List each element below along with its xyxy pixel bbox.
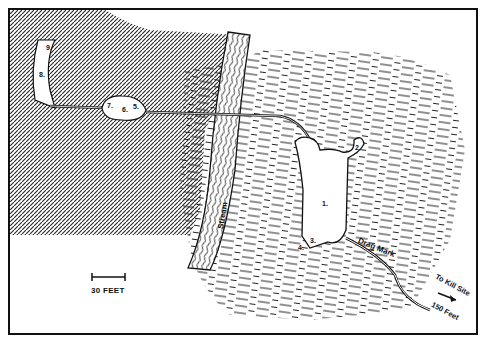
point-9-label: 9.	[46, 44, 52, 51]
kill-site-arrow	[438, 293, 456, 302]
point-2-label: 2.	[355, 144, 361, 151]
point-4-label: 4.	[298, 244, 304, 251]
point-1-label: 1.	[322, 200, 328, 207]
point-8-label: 8.	[39, 71, 45, 78]
scale-bar-label: 30 FEET	[91, 286, 125, 295]
point-5-label: 5.	[133, 103, 139, 110]
map-drawing	[10, 10, 476, 333]
point-7-label: 7.	[107, 102, 113, 109]
point-6-label: 6.	[122, 106, 128, 113]
scale-bar	[92, 273, 125, 281]
map-frame: 9. 8. 7. 6. 5. 1. 2. 3. 4. 30 FEET Strea…	[8, 8, 478, 335]
point-3-label: 3.	[310, 237, 316, 244]
